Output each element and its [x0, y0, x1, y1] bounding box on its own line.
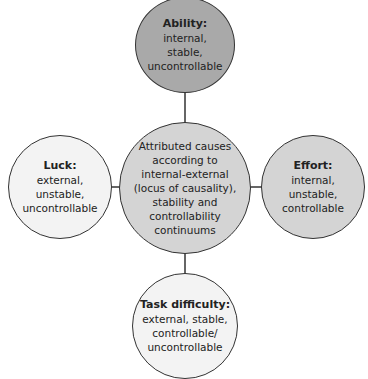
effort-line: controllable: [282, 201, 344, 215]
effort-line: unstable,: [289, 187, 338, 201]
ability-title: Ability:: [163, 17, 208, 31]
center-line: Attributed causes: [139, 139, 232, 153]
ability-line: stable,: [167, 45, 202, 59]
center-line: (locus of causality),: [134, 181, 237, 195]
node-luck: Luck: external, unstable, uncontrollable: [8, 135, 112, 239]
luck-line: unstable,: [36, 187, 85, 201]
ability-line: uncontrollable: [147, 59, 222, 73]
node-effort: Effort: internal, unstable, controllable: [261, 135, 365, 239]
task-title: Task difficulty:: [140, 298, 230, 312]
center-line: stability and: [153, 195, 218, 209]
ability-line: internal,: [163, 31, 207, 45]
center-line: controllability: [149, 209, 221, 223]
task-line: controllable/: [152, 326, 217, 340]
node-center: Attributed causes according to internal-…: [119, 122, 251, 254]
luck-line: external,: [37, 173, 84, 187]
center-line: internal-external: [141, 167, 228, 181]
task-line: uncontrollable: [147, 340, 222, 354]
node-task-difficulty: Task difficulty: external, stable, contr…: [132, 273, 238, 379]
center-line: continuums: [154, 223, 216, 237]
effort-title: Effort:: [293, 159, 332, 173]
center-line: according to: [152, 153, 217, 167]
luck-line: uncontrollable: [22, 201, 97, 215]
luck-title: Luck:: [43, 159, 76, 173]
effort-line: internal,: [291, 173, 335, 187]
node-ability: Ability: internal, stable, uncontrollabl…: [135, 0, 235, 93]
task-line: external, stable,: [142, 312, 227, 326]
